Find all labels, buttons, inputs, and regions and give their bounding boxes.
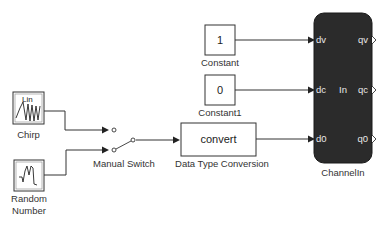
arrowhead-convert-in bbox=[173, 137, 180, 144]
convert-text: convert bbox=[200, 133, 236, 145]
output-port-q0-icon[interactable] bbox=[372, 135, 376, 143]
random-number-block-box[interactable] bbox=[14, 160, 44, 191]
constant1-block[interactable]: 0 Constant1 bbox=[198, 75, 241, 118]
wire-chirp-to-switch[interactable] bbox=[44, 111, 103, 130]
port-dv: dv bbox=[316, 34, 326, 45]
port-qv: qv bbox=[358, 34, 368, 45]
port-d0: d0 bbox=[316, 133, 327, 144]
data-type-conversion-label: Data Type Conversion bbox=[175, 158, 269, 169]
channelin-block[interactable]: dv dc d0 qv qc q0 In ChannelIn bbox=[314, 13, 376, 178]
port-dc: dc bbox=[316, 84, 326, 95]
random-number-label-line2: Number bbox=[12, 205, 46, 216]
constant-block[interactable]: 1 Constant bbox=[201, 25, 239, 68]
switch-output-contact bbox=[131, 138, 135, 142]
constant1-value: 0 bbox=[217, 84, 223, 96]
output-port-qc-icon[interactable] bbox=[372, 86, 376, 94]
switch-lever-icon[interactable] bbox=[116, 141, 131, 149]
constant-label: Constant bbox=[201, 57, 239, 68]
arrowhead-switch-in1 bbox=[102, 127, 109, 134]
constant1-label: Constant1 bbox=[198, 107, 241, 118]
block-diagram-canvas: 1 Constant 0 Constant1 Lin Chirp Random … bbox=[0, 0, 388, 226]
channelin-label: ChannelIn bbox=[321, 167, 364, 178]
chirp-block[interactable]: Lin Chirp bbox=[13, 92, 44, 140]
port-q0: q0 bbox=[357, 133, 368, 144]
manual-switch-label: Manual Switch bbox=[93, 158, 155, 169]
random-number-label-line1: Random bbox=[11, 193, 47, 204]
arrowhead-switch-in2 bbox=[102, 147, 109, 154]
output-port-qv-icon[interactable] bbox=[372, 36, 376, 44]
switch-contact-2 bbox=[112, 148, 116, 152]
channelin-center-text: In bbox=[339, 84, 347, 95]
chirp-label: Chirp bbox=[17, 129, 40, 140]
chirp-icon-text: Lin bbox=[22, 95, 33, 104]
switch-contact-1 bbox=[112, 128, 116, 132]
constant-value: 1 bbox=[217, 34, 223, 46]
signal-lines bbox=[44, 37, 315, 176]
port-qc: qc bbox=[358, 84, 368, 95]
data-type-conversion-block[interactable]: convert Data Type Conversion bbox=[175, 123, 269, 169]
random-number-block[interactable]: Random Number bbox=[11, 160, 47, 216]
